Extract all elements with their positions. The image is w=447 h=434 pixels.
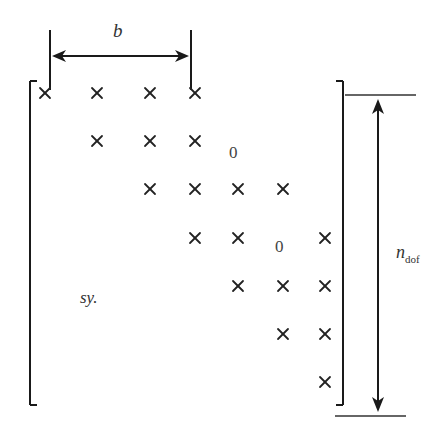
cross-icon — [145, 184, 155, 194]
dof-label-subscript: dof — [405, 253, 420, 265]
cross-icon — [145, 136, 155, 146]
nonzero-entries — [40, 88, 330, 387]
cross-icon — [278, 329, 288, 339]
zero-label-lower: 0 — [275, 237, 284, 257]
cross-icon — [40, 88, 50, 98]
banded-matrix-diagram — [0, 0, 447, 434]
symmetry-label: sy. — [80, 288, 97, 308]
cross-icon — [190, 233, 200, 243]
cross-icon — [233, 184, 243, 194]
cross-icon — [278, 281, 288, 291]
cross-icon — [320, 377, 330, 387]
right-matrix-bracket — [336, 81, 343, 405]
dof-label-main: n — [396, 242, 405, 262]
cross-icon — [278, 184, 288, 194]
cross-icon — [233, 233, 243, 243]
cross-icon — [92, 136, 102, 146]
dof-label: ndof — [396, 242, 420, 265]
cross-icon — [320, 281, 330, 291]
cross-icon — [190, 136, 200, 146]
cross-icon — [320, 233, 330, 243]
bandwidth-label: b — [113, 20, 123, 42]
cross-icon — [190, 88, 200, 98]
cross-icon — [190, 184, 200, 194]
left-matrix-bracket — [30, 81, 37, 405]
cross-icon — [233, 281, 243, 291]
cross-icon — [92, 88, 102, 98]
cross-icon — [145, 88, 155, 98]
zero-label-upper: 0 — [229, 143, 238, 163]
cross-icon — [320, 329, 330, 339]
